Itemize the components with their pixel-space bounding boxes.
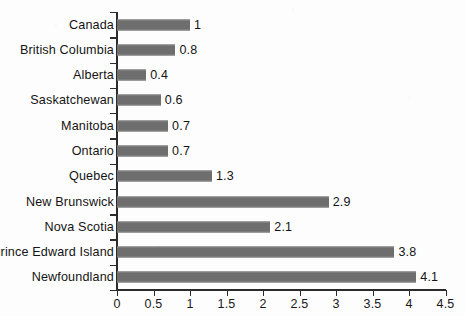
bar	[117, 221, 270, 232]
y-axis-tick	[110, 63, 116, 64]
category-label: Quebec	[69, 169, 114, 183]
x-axis-tick-label: 1.5	[218, 297, 236, 311]
bar-value-label: 2.9	[333, 195, 351, 209]
x-axis-tick	[227, 290, 228, 296]
bar	[117, 171, 212, 182]
bar-value-label: 4.1	[420, 270, 438, 284]
x-axis-tick-label: 3.5	[364, 297, 382, 311]
bar-value-label: 0.6	[165, 93, 183, 107]
bar-value-label: 3.8	[398, 245, 416, 259]
bar-value-label: 0.4	[150, 68, 168, 82]
bar	[117, 70, 146, 81]
category-label: Prince Edward Island	[0, 245, 114, 259]
category-label: British Columbia	[20, 43, 114, 57]
bar	[117, 272, 416, 283]
y-axis-tick	[110, 265, 116, 266]
x-axis-tick	[446, 290, 447, 296]
x-axis-tick-label: 1	[186, 297, 193, 311]
category-label: Ontario	[72, 144, 114, 158]
x-axis-tick	[190, 290, 191, 296]
x-axis-tick	[117, 290, 118, 296]
x-axis-tick	[154, 290, 155, 296]
y-axis-tick	[110, 164, 116, 165]
category-label: Nova Scotia	[44, 220, 114, 234]
x-axis-tick	[373, 290, 374, 296]
category-label: New Brunswick	[26, 195, 114, 209]
bar	[117, 196, 329, 207]
x-axis-tick-label: 0.5	[145, 297, 163, 311]
bar-value-label: 2.1	[274, 220, 292, 234]
x-axis-tick-label: 3	[332, 297, 339, 311]
bar	[117, 95, 161, 106]
y-axis-tick	[110, 12, 116, 13]
plot-area: 00.511.522.533.544.5 CanadaBritish Colum…	[0, 0, 465, 316]
category-label: Canada	[69, 18, 114, 32]
bar-value-label: 1	[194, 18, 201, 32]
x-axis-tick-label: 0	[113, 297, 120, 311]
horizontal-bar-chart: 00.511.522.533.544.5 CanadaBritish Colum…	[0, 0, 465, 316]
y-axis-tick	[110, 113, 116, 114]
x-axis-tick-label: 4	[405, 297, 412, 311]
bar-value-label: 0.8	[179, 43, 197, 57]
y-axis-tick	[110, 88, 116, 89]
x-axis-line	[116, 289, 446, 291]
x-axis-tick	[409, 290, 410, 296]
y-axis-tick	[110, 239, 116, 240]
y-axis-tick	[110, 138, 116, 139]
x-axis-tick-label: 2.5	[291, 297, 309, 311]
category-label: Manitoba	[61, 119, 114, 133]
bar	[117, 19, 190, 30]
x-axis-tick	[336, 290, 337, 296]
y-axis-tick	[110, 189, 116, 190]
bar-value-label: 1.3	[216, 169, 234, 183]
bar	[117, 120, 168, 131]
bar	[117, 247, 394, 258]
x-axis-tick	[263, 290, 264, 296]
x-axis-tick	[300, 290, 301, 296]
category-label: Newfoundland	[32, 270, 114, 284]
bar	[117, 146, 168, 157]
y-axis-tick	[110, 214, 116, 215]
bar-value-label: 0.7	[172, 119, 190, 133]
category-label: Saskatchewan	[30, 93, 114, 107]
bar-value-label: 0.7	[172, 144, 190, 158]
bar	[117, 44, 175, 55]
x-axis-tick-label: 4.5	[437, 297, 455, 311]
y-axis-tick	[110, 290, 116, 291]
category-label: Alberta	[73, 68, 114, 82]
x-axis-tick-label: 2	[259, 297, 266, 311]
y-axis-tick	[110, 37, 116, 38]
